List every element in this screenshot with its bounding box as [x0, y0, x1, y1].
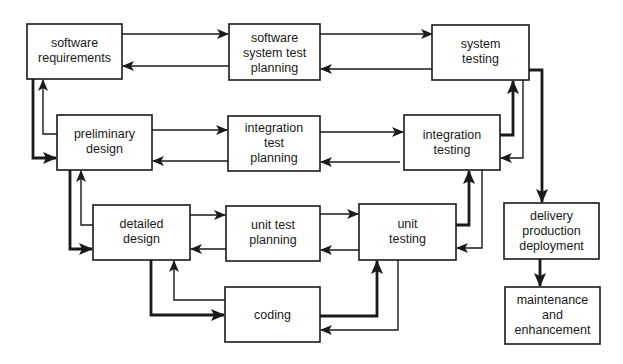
- box-detailed-design: detailed design: [93, 205, 190, 260]
- box-label-line: planning: [250, 151, 297, 165]
- box-label-line: design: [86, 142, 123, 156]
- box-coding: coding: [225, 287, 320, 342]
- box-software-requirements: software requirements: [27, 24, 122, 79]
- box-label-line: and: [542, 308, 563, 322]
- box-maintenance-and-enhancement: maintenance and enhancement: [505, 287, 600, 344]
- box-label-line: test: [264, 136, 285, 150]
- box-label-line: testing: [389, 232, 426, 246]
- arrow-coding-up-to-detailed: [174, 261, 225, 300]
- box-integration-test-planning: integration test planning: [228, 116, 320, 171]
- box-label-line: detailed: [120, 217, 164, 231]
- box-label-line: coding: [254, 308, 291, 322]
- box-system-testing: system testing: [432, 25, 529, 80]
- box-software-system-test-planning: software system test planning: [229, 24, 320, 80]
- arrow-unit-testing-down-to-coding: [321, 260, 398, 330]
- box-label-line: system: [461, 37, 501, 51]
- box-label-line: requirements: [38, 51, 111, 65]
- box-label-line: integration: [423, 128, 481, 142]
- arrow-system-testing-to-delivery: [529, 70, 542, 202]
- box-label-line: unit test: [251, 218, 295, 232]
- box-label-line: planning: [251, 61, 298, 75]
- box-label-line: design: [123, 232, 160, 246]
- box-label-line: planning: [249, 233, 296, 247]
- box-label-line: testing: [462, 52, 499, 66]
- arrow-unit-testing-up-to-integration: [456, 171, 469, 225]
- box-label-line: deployment: [519, 239, 584, 253]
- arrow-preliminary-up-to-requirements: [43, 80, 57, 134]
- box-integration-testing: integration testing: [404, 115, 500, 170]
- box-label-line: maintenance: [517, 293, 589, 307]
- box-label-line: software: [251, 31, 298, 45]
- v-model-diagram: software requirements software system te…: [0, 0, 623, 364]
- arrow-detailed-down-to-coding: [151, 260, 224, 315]
- box-label-line: enhancement: [515, 323, 591, 337]
- box-label-line: preliminary: [74, 127, 136, 141]
- box-label-line: integration: [245, 121, 303, 135]
- box-label-line: delivery: [530, 209, 574, 223]
- box-label-line: production: [522, 224, 580, 238]
- box-label-line: software: [51, 36, 98, 50]
- arrow-coding-up-to-unit-testing: [320, 261, 377, 316]
- arrow-requirements-down-to-preliminary: [33, 79, 56, 158]
- box-unit-testing: unit testing: [359, 204, 456, 260]
- box-label-line: unit: [397, 217, 418, 231]
- arrow-integration-up-to-system-testing: [500, 81, 513, 135]
- box-delivery-production-deployment: delivery production deployment: [504, 203, 599, 259]
- box-unit-test-planning: unit test planning: [226, 206, 320, 261]
- box-label-line: testing: [434, 143, 471, 157]
- arrow-detailed-up-to-preliminary: [81, 171, 93, 225]
- box-label-line: system test: [243, 46, 307, 60]
- box-preliminary-design: preliminary design: [57, 115, 152, 170]
